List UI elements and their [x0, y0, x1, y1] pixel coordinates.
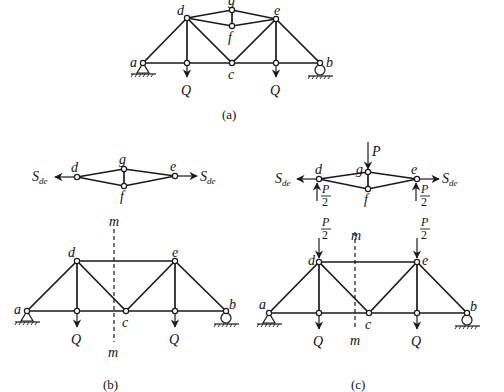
applied-label-p-half: P 2 — [420, 215, 430, 242]
node-label-c: c — [228, 67, 235, 82]
node-label-d: d — [315, 162, 323, 177]
node-label-a: a — [130, 55, 137, 70]
node-label-a: a — [259, 297, 266, 312]
node-label-d: d — [177, 3, 185, 18]
load-label-q: Q — [313, 334, 323, 349]
roller-support-icon — [455, 315, 480, 329]
caption-a: (a) — [222, 107, 236, 122]
node-label-c: c — [122, 315, 129, 330]
panel-b-subsystem: d g f e Sde Sde — [32, 152, 216, 204]
node-label-g: g — [119, 152, 126, 167]
force-label-sde-left: Sde — [275, 171, 291, 188]
node-label-d: d — [71, 160, 79, 175]
caption-b: (b) — [103, 377, 118, 392]
node-label-f: f — [364, 192, 370, 207]
svg-text:P: P — [321, 215, 330, 229]
load-label-q: Q — [270, 83, 280, 98]
panel-b: d g f e Sde Sde — [14, 152, 239, 392]
node-label-g: g — [356, 162, 363, 177]
node-label-e: e — [274, 3, 280, 18]
svg-text:2: 2 — [322, 228, 328, 242]
panel-c-main-truss: a b c d e m m Q Q P 2 P 2 — [257, 215, 480, 349]
force-label-sde-right: Sde — [442, 171, 458, 188]
node-label-e: e — [422, 253, 428, 268]
svg-text:P: P — [420, 182, 429, 196]
node-label-e: e — [411, 162, 417, 177]
node-label-f: f — [120, 189, 126, 204]
node-label-g: g — [228, 0, 235, 8]
svg-text:2: 2 — [322, 195, 328, 209]
reaction-label-p-half: P 2 — [321, 182, 331, 209]
node-label-e: e — [172, 245, 178, 260]
caption-c: (c) — [351, 377, 365, 392]
svg-text:2: 2 — [421, 195, 427, 209]
reaction-label-p-half: P 2 — [420, 182, 430, 209]
load-label-q: Q — [181, 83, 191, 98]
force-label-sde-right: Sde — [200, 169, 216, 186]
node-label-a: a — [14, 302, 21, 317]
load-label-q: Q — [169, 332, 179, 347]
node-label-f: f — [228, 30, 234, 45]
section-label-m-top: m — [351, 228, 361, 243]
svg-text:2: 2 — [421, 228, 427, 242]
truss-figure: a b c d e f g Q Q (a) d g f e Sde — [0, 0, 504, 392]
panel-b-main-truss: a b c d e m m Q Q — [14, 214, 239, 360]
panel-a: a b c d e f g Q Q (a) — [130, 0, 333, 122]
svg-text:P: P — [321, 182, 330, 196]
force-label-sde-left: Sde — [32, 169, 48, 186]
node-label-b: b — [470, 299, 477, 314]
node-label-d: d — [68, 245, 76, 260]
section-label-m-top: m — [109, 214, 119, 229]
load-label-q: Q — [411, 334, 421, 349]
node-label-d: d — [308, 253, 316, 268]
section-label-m-bottom: m — [108, 345, 118, 360]
roller-support-icon — [214, 313, 239, 327]
node-label-e: e — [170, 159, 176, 174]
panel-c: d g f e P Sde Sde P 2 P 2 — [257, 142, 480, 392]
node-label-c: c — [365, 317, 372, 332]
panel-c-subsystem: d g f e P Sde Sde P 2 P 2 — [275, 142, 458, 209]
node-label-b: b — [229, 297, 236, 312]
node-label-b: b — [326, 55, 333, 70]
load-label-p: P — [371, 144, 381, 159]
load-label-q: Q — [71, 332, 81, 347]
applied-label-p-half: P 2 — [321, 215, 331, 242]
svg-text:P: P — [420, 215, 429, 229]
section-label-m-bottom: m — [350, 333, 360, 348]
